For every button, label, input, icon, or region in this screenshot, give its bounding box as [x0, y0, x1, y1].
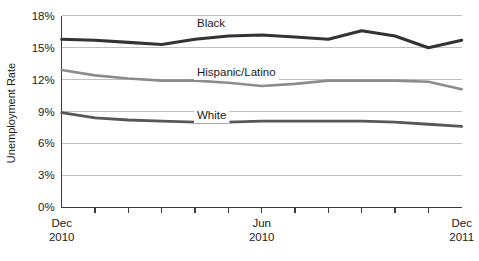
y-axis-tick-label: 3%: [38, 169, 55, 181]
y-axis-tick-label: 6%: [38, 137, 55, 149]
series-line-white: [62, 113, 462, 127]
series-inline-labels: BlackHispanic/LatinoWhite: [194, 16, 279, 123]
y-axis-tick-label: 12%: [32, 74, 55, 86]
series-label-black: Black: [197, 17, 225, 29]
y-axis-tick-label: 18%: [32, 10, 55, 22]
x-axis-tick-label-month: Dec: [51, 217, 72, 229]
x-axis-tick-label-month: Dec: [451, 217, 472, 229]
x-axis-tick-labels: Dec2010Jun2010Dec2011: [49, 217, 474, 243]
chart-canvas: 18%15%12%9%6%3%0% Dec2010Jun2010Dec2011 …: [0, 0, 479, 261]
unemployment-rate-chart: 18%15%12%9%6%3%0% Dec2010Jun2010Dec2011 …: [0, 0, 479, 261]
series-label-white: White: [197, 109, 226, 121]
y-axis-tick-label: 0%: [38, 201, 55, 213]
y-axis-tick-labels: 18%15%12%9%6%3%0%: [32, 10, 55, 213]
y-axis-tick-label: 15%: [32, 42, 55, 54]
y-axis-title: Unemployment Rate: [5, 63, 17, 163]
series-line-black: [62, 31, 462, 48]
x-axis-tick-label-year: 2011: [449, 231, 474, 243]
x-axis-tick-label-month: Jun: [252, 217, 271, 229]
x-axis-tick-label-year: 2010: [49, 231, 75, 243]
x-axis-tick-label-year: 2010: [249, 231, 275, 243]
series-label-hispanic-latino: Hispanic/Latino: [197, 66, 276, 78]
y-axis-tick-label: 9%: [38, 106, 55, 118]
